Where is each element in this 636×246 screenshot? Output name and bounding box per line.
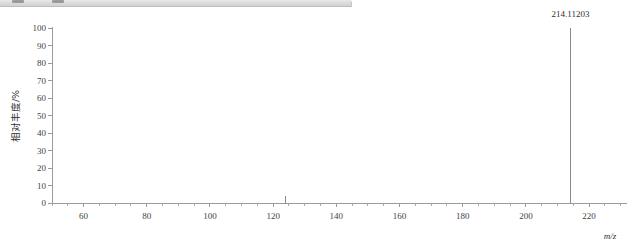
y-axis-tick-label: 30	[37, 146, 47, 156]
peak-annotations: 214.11203	[552, 9, 590, 19]
y-axis-tick-label: 90	[37, 41, 47, 51]
peak-label: 214.11203	[552, 9, 590, 19]
x-axis-tick-label: 120	[266, 211, 280, 221]
y-axis-tick-label: 70	[37, 76, 47, 86]
x-axis-tick-label: 80	[142, 211, 152, 221]
x-axis-tick-label: 60	[79, 211, 89, 221]
y-axis-tick-label: 100	[33, 23, 47, 33]
y-axis-tick-label: 10	[37, 181, 47, 191]
y-axis-tick-label: 60	[37, 93, 47, 103]
x-axis-tick-label: 140	[330, 211, 344, 221]
x-axis-tick-label: 200	[519, 211, 533, 221]
y-axis-tick-label: 80	[37, 58, 47, 68]
x-axis: 6080100120140160180200220	[52, 203, 627, 221]
y-axis: 0102030405060708090100	[33, 23, 53, 208]
y-axis-tick-label: 20	[37, 163, 47, 173]
x-axis-tick-label: 180	[456, 211, 470, 221]
y-axis-title: 相对丰度/%	[10, 90, 21, 142]
y-axis-tick-label: 0	[42, 198, 47, 208]
x-axis-tick-label: 220	[582, 211, 596, 221]
x-axis-tick-label: 100	[203, 211, 217, 221]
y-axis-tick-label: 40	[37, 128, 47, 138]
peak-series	[286, 28, 571, 203]
mass-spectrum-chart: 0102030405060708090100 60801001201401601…	[0, 0, 636, 246]
x-axis-tick-label: 160	[393, 211, 407, 221]
y-axis-tick-label: 50	[37, 111, 47, 121]
x-axis-title: m/z	[604, 231, 617, 241]
